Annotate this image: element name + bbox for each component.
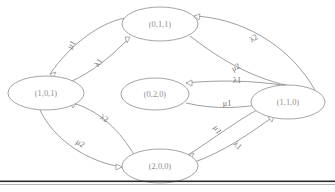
arrowhead-icon <box>186 80 192 86</box>
arrowhead-icon <box>125 37 130 43</box>
edge-lambda2-bottom-left: λ2 <box>70 102 136 158</box>
edge-lambda1-top-left: λ1 <box>72 37 130 81</box>
edge-lambda1-bottom-right: λ1 <box>192 116 274 163</box>
edge-label-mu2-bottom-left: μ2 <box>74 137 86 149</box>
bottom-divider-secondary <box>0 184 335 185</box>
node-1-0-1[interactable]: (1,0,1) <box>8 76 84 110</box>
node-label: (1,0,1) <box>35 89 58 98</box>
diagram-canvas: μ1 λ1 λ2 μ2 λ1 μ1 <box>0 0 335 192</box>
edge-mu1-bottom-right: μ1 <box>188 104 268 159</box>
edge-path <box>76 104 136 158</box>
edge-label-lambda1-center-right: λ1 <box>233 76 241 85</box>
node-0-1-1[interactable]: (0,1,1) <box>122 7 198 41</box>
node-0-2-0[interactable]: (0,2,0) <box>121 78 189 110</box>
edge-mu1-top-left: μ1 <box>50 18 126 78</box>
edge-label-mu2-top-right: μ2 <box>230 61 242 73</box>
edge-label-lambda1-top-left: λ1 <box>92 57 104 69</box>
edge-path <box>72 37 130 81</box>
edge-path <box>192 116 274 163</box>
bottom-divider <box>0 181 335 183</box>
node-label: (0,1,1) <box>149 20 172 29</box>
edge-label-mu1-bottom-right: μ1 <box>211 124 223 136</box>
node-label: (0,2,0) <box>144 90 167 99</box>
edge-lambda1-center-right: λ1 <box>186 76 288 86</box>
arrowhead-icon <box>116 164 122 170</box>
edge-label-mu1-center-right: μ1 <box>223 99 231 108</box>
node-label: (1,1,0) <box>277 98 300 107</box>
edge-path <box>50 18 126 74</box>
edge-path <box>188 104 268 155</box>
edge-lambda2-top-right: λ2 <box>194 14 316 92</box>
edge-label-mu1-top-left: μ1 <box>65 39 77 51</box>
edge-label-lambda1-bottom-right: λ1 <box>231 139 243 151</box>
edge-mu2-bottom-left: μ2 <box>40 110 122 170</box>
state-transition-diagram: μ1 λ1 λ2 μ2 λ1 μ1 <box>0 0 335 192</box>
edge-path <box>194 16 316 92</box>
node-label: (2,0,0) <box>149 162 172 171</box>
node-1-1-0[interactable]: (1,1,0) <box>251 85 325 119</box>
node-2-0-0[interactable]: (2,0,0) <box>122 149 198 183</box>
